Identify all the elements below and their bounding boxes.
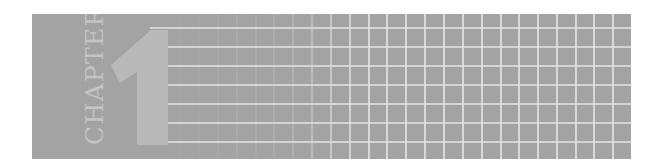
chapter-number-numeral [111,30,168,145]
chapter-label: CHAPTER [82,14,107,145]
horizontal-rules [150,28,631,142]
chapter-banner: CHAPTER 1 [32,14,631,159]
grid-pattern [32,14,631,159]
vertical-rules [180,14,613,159]
